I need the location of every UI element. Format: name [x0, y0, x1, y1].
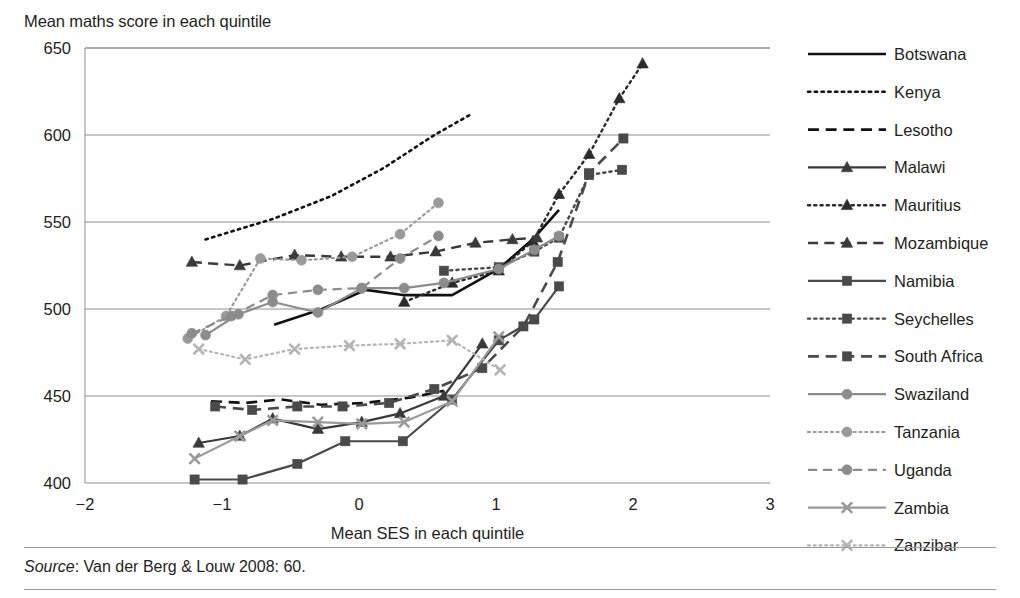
series-marker [399, 296, 410, 306]
series-marker [248, 405, 257, 414]
series-marker [430, 384, 439, 393]
legend-item-label: Mozambique [894, 234, 988, 252]
legend-item-zanzibar[interactable]: Zanzibar [808, 536, 959, 554]
x-axis-title-text: Mean SES in each quintile [331, 524, 525, 542]
series-marker [313, 307, 323, 317]
legend-item-swaziland[interactable]: Swaziland [808, 385, 969, 403]
series-marker [189, 453, 199, 463]
series-mauritius [399, 58, 649, 307]
series-marker [433, 231, 443, 241]
legend-item-kenya[interactable]: Kenya [808, 83, 942, 101]
legend-item-south-africa[interactable]: South Africa [808, 347, 984, 365]
series-marker [347, 252, 357, 262]
x-axis-tick-labels: −2−10123 [76, 495, 775, 513]
series-marker [211, 402, 220, 411]
series-kenya [206, 114, 472, 239]
y-tick-label: 550 [43, 213, 71, 231]
series-marker [268, 290, 278, 300]
legend-item-label: Lesotho [894, 121, 953, 139]
series-marker [313, 285, 323, 295]
legend-item-mozambique[interactable]: Mozambique [808, 234, 988, 252]
legend-item-zambia[interactable]: Zambia [808, 499, 950, 517]
legend-item-label: Seychelles [894, 310, 974, 328]
series-seychelles [439, 165, 626, 275]
series-marker [395, 254, 405, 264]
series-marker [255, 254, 265, 264]
legend-item-tanzania[interactable]: Tanzania [808, 423, 961, 441]
source-label: Source [24, 558, 75, 575]
series-marker [341, 437, 350, 446]
legend-item-label: Malawi [894, 158, 945, 176]
series-line [206, 114, 472, 239]
divider-top [24, 547, 996, 548]
chart-legend: BotswanaKenyaLesothoMalawiMauritiusMozam… [808, 45, 988, 554]
legend-item-label: Uganda [894, 461, 953, 479]
x-tick-label: 3 [765, 495, 774, 513]
series-marker [296, 255, 306, 265]
y-tick-label: 650 [43, 39, 71, 57]
series-marker [194, 344, 204, 354]
y-tick-label: 500 [43, 300, 71, 318]
legend-item-seychelles[interactable]: Seychelles [808, 310, 974, 328]
legend-item-label: South Africa [894, 347, 984, 365]
legend-swatch-marker [842, 389, 852, 399]
legend-item-label: Zanzibar [894, 536, 959, 554]
legend-item-uganda[interactable]: Uganda [808, 461, 953, 479]
legend-swatch-marker [842, 465, 852, 475]
source-text: : Van der Berg & Louw 2008: 60. [75, 558, 306, 575]
chart-svg: 400450500550600650 −2−10123 Mean SES in … [0, 0, 1020, 598]
legend-item-label: Swaziland [894, 385, 969, 403]
legend-item-label: Zambia [894, 499, 950, 517]
series-line [195, 286, 559, 479]
series-marker [201, 330, 211, 340]
series-marker [477, 338, 488, 348]
series-marker [554, 231, 564, 241]
series-marker [619, 134, 628, 143]
divider-bottom [24, 589, 996, 590]
series-south-africa [211, 134, 628, 415]
data-series-layer [183, 58, 649, 484]
series-marker [583, 148, 594, 158]
series-marker [238, 475, 247, 484]
series-marker [519, 322, 528, 331]
series-marker [530, 315, 539, 324]
series-marker [439, 278, 449, 288]
legend-item-label: Botswana [894, 45, 967, 63]
series-tanzania [183, 198, 444, 344]
series-marker [637, 58, 648, 68]
series-marker [289, 344, 299, 354]
series-line [206, 236, 559, 335]
legend-swatch-marker [842, 427, 852, 437]
series-marker [293, 402, 302, 411]
series-marker [398, 437, 407, 446]
series-marker [554, 282, 563, 291]
legend-item-namibia[interactable]: Namibia [808, 272, 955, 290]
x-tick-label: −2 [76, 495, 95, 513]
series-marker [553, 257, 562, 266]
series-marker [338, 402, 347, 411]
series-marker [357, 283, 367, 293]
legend-item-label: Kenya [894, 83, 942, 101]
legend-item-mauritius[interactable]: Mauritius [808, 196, 961, 214]
legend-item-label: Tanzania [894, 423, 961, 441]
legend-item-botswana[interactable]: Botswana [808, 45, 967, 63]
legend-item-label: Namibia [894, 272, 955, 290]
source-note: Source: Van der Berg & Louw 2008: 60. [24, 558, 306, 576]
series-swaziland [201, 231, 564, 340]
legend-item-malawi[interactable]: Malawi [808, 158, 945, 176]
x-tick-label: 0 [354, 495, 363, 513]
series-marker [190, 475, 199, 484]
series-marker [494, 264, 504, 274]
y-tick-label: 600 [43, 126, 71, 144]
legend-swatch-marker [842, 276, 851, 285]
series-marker [227, 311, 237, 321]
chart-page: Mean maths score in each quintile 400450… [0, 0, 1020, 598]
legend-item-lesotho[interactable]: Lesotho [808, 121, 953, 139]
x-tick-label: 1 [491, 495, 500, 513]
y-tick-label: 400 [43, 474, 71, 492]
series-marker [399, 283, 409, 293]
series-marker [439, 266, 448, 275]
y-axis-tick-labels: 400450500550600650 [43, 39, 71, 492]
series-marker [585, 169, 594, 178]
series-marker [395, 229, 405, 239]
